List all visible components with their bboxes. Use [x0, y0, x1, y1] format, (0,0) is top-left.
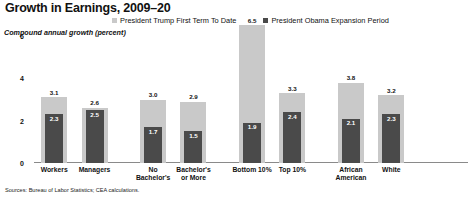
category-label-line: Managers — [74, 166, 114, 174]
bar-groups: 3.12.32.62.53.01.72.91.56.51.93.32.43.82… — [34, 36, 468, 163]
bar-value-label: 2.6 — [82, 99, 108, 106]
y-axis-tick-label: 0 — [20, 160, 34, 167]
bar-group: 2.91.5 — [173, 36, 213, 163]
bar-group — [313, 36, 331, 163]
category-label-line: American — [331, 174, 371, 182]
y-axis-tick-label: 4 — [20, 75, 34, 82]
bar-pair: 3.22.3 — [378, 36, 404, 163]
bar-pair: 3.12.3 — [41, 36, 67, 163]
legend-entry[interactable]: President Obama Expansion Period — [263, 17, 389, 24]
bar-pair: 2.91.5 — [180, 36, 206, 163]
x-axis-category-label: Managers — [74, 166, 114, 182]
x-axis-category-label: Bottom 10% — [232, 166, 272, 182]
bar-value-label: 3.0 — [140, 91, 166, 98]
category-label-line: Workers — [34, 166, 74, 174]
bar-value-label: 6.5 — [239, 17, 265, 24]
bar-value-label: 3.1 — [41, 89, 67, 96]
bar-group: 3.01.7 — [133, 36, 173, 163]
bar-value-label: 2.5 — [86, 111, 104, 118]
bar-value-label: 3.2 — [378, 87, 404, 94]
category-label-line: or More — [173, 174, 213, 182]
bar-group: 6.51.9 — [232, 36, 272, 163]
bar-value-label: 2.4 — [283, 113, 301, 120]
bar-pair: 3.01.7 — [140, 36, 166, 163]
x-axis-spacer — [115, 166, 133, 182]
bar-group — [115, 36, 133, 163]
category-label-line: No — [133, 166, 173, 174]
plot-area: 6420 3.12.32.62.53.01.72.91.56.51.93.32.… — [20, 36, 468, 163]
x-axis-category-label: NoBachelor's — [133, 166, 173, 182]
legend-entry[interactable]: President Trump First Term To Date — [112, 17, 236, 24]
category-label-line: Bottom 10% — [232, 166, 272, 174]
legend-swatch-icon — [112, 18, 117, 23]
bar-group: 3.22.3 — [371, 36, 411, 163]
source-note: Sources: Bureau of Labor Statistics; CEA… — [5, 187, 139, 193]
bar-value-label: 2.9 — [180, 93, 206, 100]
bar-value-label: 1.5 — [184, 132, 202, 139]
bar-obama[interactable] — [86, 110, 104, 163]
bar-pair: 6.51.9 — [239, 36, 265, 163]
x-axis-category-label: AfricanAmerican — [331, 166, 371, 182]
bar-value-label: 3.8 — [338, 74, 364, 81]
bar-group: 3.12.3 — [34, 36, 74, 163]
bar-value-label: 2.3 — [382, 115, 400, 122]
bar-group: 2.62.5 — [74, 36, 114, 163]
x-axis-spacer — [214, 166, 232, 182]
bar-value-label: 1.9 — [243, 123, 261, 130]
chart-title: Growth in Earnings, 2009–20 — [5, 1, 171, 15]
bar-pair: 2.62.5 — [82, 36, 108, 163]
category-label-line: African — [331, 166, 371, 174]
chart-figure: Growth in Earnings, 2009–20 President Tr… — [0, 0, 472, 198]
legend-label: President Obama Expansion Period — [271, 17, 389, 24]
bar-group — [214, 36, 232, 163]
bar-value-label: 1.7 — [144, 128, 162, 135]
bar-value-label: 2.1 — [342, 119, 360, 126]
bar-group: 3.32.4 — [272, 36, 312, 163]
y-axis-tick-label: 6 — [20, 33, 34, 40]
y-axis-tick-label: 2 — [20, 117, 34, 124]
category-label-line: Top 10% — [272, 166, 312, 174]
bar-value-label: 3.3 — [279, 85, 305, 92]
x-axis-category-label: Bachelor'sor More — [173, 166, 213, 182]
x-axis-category-labels: WorkersManagersNoBachelor'sBachelor'sor … — [34, 166, 468, 182]
legend-label: President Trump First Term To Date — [120, 17, 236, 24]
x-axis-category-label: Workers — [34, 166, 74, 182]
bar-obama[interactable] — [283, 112, 301, 163]
bar-pair: 3.82.1 — [338, 36, 364, 163]
bar-pair: 3.32.4 — [279, 36, 305, 163]
category-label-line: Bachelor's — [133, 174, 173, 182]
x-axis-category-label: White — [371, 166, 411, 182]
x-axis-spacer — [313, 166, 331, 182]
category-label-line: White — [371, 166, 411, 174]
category-label-line: Bachelor's — [173, 166, 213, 174]
bar-value-label: 2.3 — [45, 115, 63, 122]
bar-group: 3.82.1 — [331, 36, 371, 163]
x-axis-category-label: Top 10% — [272, 166, 312, 182]
